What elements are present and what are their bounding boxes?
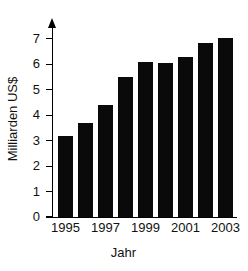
x-axis-tick-label: 1995 xyxy=(44,221,88,235)
x-axis-tick-label: 1997 xyxy=(84,221,128,235)
y-axis-tick-label: 3 xyxy=(26,134,40,147)
x-axis-title: Jahr xyxy=(0,246,247,260)
bar xyxy=(78,123,93,217)
x-axis-tick-label: 1999 xyxy=(124,221,168,235)
y-axis-tick-label: 1 xyxy=(26,185,40,198)
y-axis-tick-label: 0 xyxy=(26,210,40,223)
bar xyxy=(198,43,213,217)
y-axis-tick-label: 2 xyxy=(26,159,40,172)
bar xyxy=(178,57,193,217)
bar xyxy=(118,77,133,217)
bar-series xyxy=(52,30,238,217)
bar xyxy=(58,136,73,217)
bar-chart: 01234567 19951997199920012003 Jahr Milli… xyxy=(0,0,247,271)
x-axis-tick-label: 2003 xyxy=(204,221,248,235)
x-axis-tick-label: 2001 xyxy=(164,221,208,235)
bar xyxy=(158,63,173,217)
y-axis-tick-label: 7 xyxy=(26,32,40,45)
y-axis-tick-label: 5 xyxy=(26,83,40,96)
bar xyxy=(218,38,233,217)
plot-area xyxy=(52,30,238,217)
bar xyxy=(138,62,153,217)
bar xyxy=(98,105,113,217)
y-axis-arrow-icon xyxy=(48,18,56,28)
y-axis-title: Milliarden US$ xyxy=(6,44,20,194)
y-axis-tick-label: 4 xyxy=(26,108,40,121)
x-axis-line xyxy=(52,217,237,218)
y-axis-tick-label: 6 xyxy=(26,57,40,70)
